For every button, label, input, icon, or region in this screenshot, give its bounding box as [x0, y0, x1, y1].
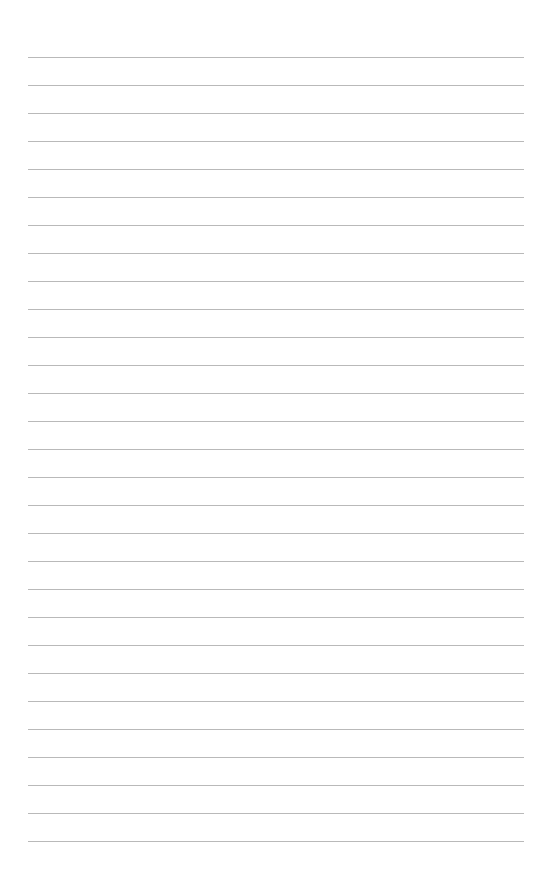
- ruled-line: [28, 113, 524, 114]
- ruled-line: [28, 785, 524, 786]
- ruled-line: [28, 393, 524, 394]
- ruled-line: [28, 85, 524, 86]
- ruled-line: [28, 225, 524, 226]
- lined-paper-page: [0, 0, 550, 872]
- ruled-line: [28, 673, 524, 674]
- ruled-line: [28, 57, 524, 58]
- ruled-line: [28, 813, 524, 814]
- ruled-line: [28, 337, 524, 338]
- ruled-line: [28, 561, 524, 562]
- ruled-line: [28, 617, 524, 618]
- ruled-line: [28, 169, 524, 170]
- ruled-line: [28, 645, 524, 646]
- ruled-line: [28, 505, 524, 506]
- ruled-line: [28, 309, 524, 310]
- ruled-line: [28, 281, 524, 282]
- ruled-line: [28, 533, 524, 534]
- ruled-line: [28, 701, 524, 702]
- ruled-line: [28, 841, 524, 842]
- ruled-line: [28, 757, 524, 758]
- ruled-line: [28, 449, 524, 450]
- ruled-line: [28, 729, 524, 730]
- ruled-line: [28, 141, 524, 142]
- ruled-line: [28, 365, 524, 366]
- ruled-line: [28, 421, 524, 422]
- ruled-line: [28, 477, 524, 478]
- ruled-line: [28, 253, 524, 254]
- ruled-line: [28, 197, 524, 198]
- ruled-line: [28, 589, 524, 590]
